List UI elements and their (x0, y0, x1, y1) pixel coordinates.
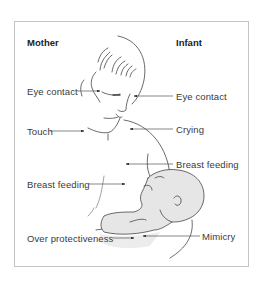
label-infant-breast-feeding: Breast feeding (176, 159, 239, 170)
mother-heading: Mother (27, 37, 59, 48)
label-mother-touch: Touch (27, 126, 53, 137)
label-mother-over-protectiveness: Over protectiveness (27, 233, 113, 244)
label-mother-eye-contact: Eye contact (27, 86, 78, 97)
label-mother-breast-feeding: Breast feeding (27, 179, 90, 190)
label-infant-crying: Crying (176, 124, 204, 135)
infant-heading: Infant (176, 37, 202, 48)
label-infant-eye-contact: Eye contact (176, 91, 227, 102)
label-infant-mimicry: Mimicry (202, 231, 235, 242)
